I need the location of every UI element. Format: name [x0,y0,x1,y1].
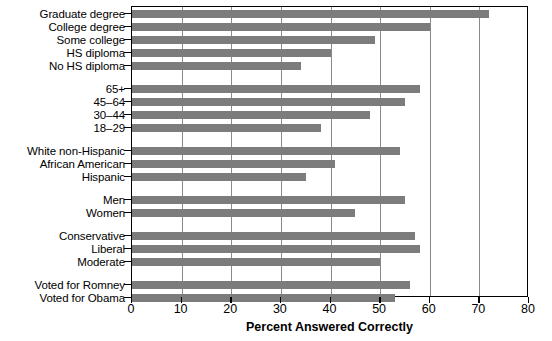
bar [132,147,400,155]
category-label: Conservative [59,230,125,242]
category-label: HS diploma [67,47,125,59]
y-axis-tick [124,235,131,236]
y-axis-tick [124,150,131,151]
bar [132,160,335,168]
y-axis-tick [124,101,131,102]
y-axis-tick [124,88,131,89]
x-axis-tick-label: 60 [422,302,436,316]
category-label: Hispanic [82,171,125,183]
category-label: Liberal [91,243,125,255]
x-axis-tick-label: 20 [223,302,237,316]
y-axis-tick [124,284,131,285]
x-axis-tick-label: 50 [372,302,386,316]
x-axis: 01020304050607080 [131,297,528,311]
bar [132,111,370,119]
category-label: 30–44 [94,109,125,121]
category-label: 65+ [106,83,125,95]
y-axis-tick [124,297,131,298]
bar [132,258,380,266]
bar [132,36,375,44]
category-label: Moderate [77,256,125,268]
bar [132,173,306,181]
category-label: College degree [48,21,125,33]
y-axis-tick [124,248,131,249]
bar [132,209,355,217]
y-axis-tick [124,114,131,115]
y-axis-tick [124,199,131,200]
y-axis-tick [124,127,131,128]
category-label: Voted for Romney [35,279,125,291]
x-axis-tick-label: 30 [273,302,287,316]
bar [132,49,331,57]
x-axis-tick-label: 70 [471,302,485,316]
category-label: White non-Hispanic [27,145,125,157]
y-axis-tick [124,163,131,164]
plot-area [131,6,528,297]
category-label: Men [103,194,125,206]
y-axis-tick [124,261,131,262]
bar [132,10,489,18]
y-axis-tick [124,176,131,177]
bar [132,23,430,31]
category-label: Women [86,207,125,219]
gridline-70 [479,7,480,296]
bar [132,98,405,106]
y-axis-tick [124,52,131,53]
category-label: Some college [57,34,125,46]
x-axis-tick-label: 10 [174,302,188,316]
y-axis-tick [124,26,131,27]
category-labels: Graduate degreeCollege degreeSome colleg… [0,0,128,296]
bar-chart: Graduate degreeCollege degreeSome colleg… [0,0,552,341]
y-axis-tick [124,39,131,40]
y-axis-tick [124,13,131,14]
category-label: 45–64 [94,96,125,108]
category-label: No HS diploma [49,60,125,72]
bar [132,281,410,289]
x-axis-tick-label: 80 [521,302,535,316]
bar [132,196,405,204]
gridline-60 [430,7,431,296]
y-axis-tick [124,212,131,213]
bar [132,232,415,240]
x-axis-tick-label: 40 [323,302,337,316]
bar [132,245,420,253]
bar [132,124,321,132]
category-label: Graduate degree [40,8,125,20]
y-axis-tick [124,65,131,66]
x-axis-tick-label: 0 [128,302,135,316]
bar [132,62,301,70]
category-label: 18–29 [94,122,125,134]
category-label: African American [40,158,125,170]
bar [132,85,420,93]
category-label: Voted for Obama [40,292,125,304]
x-axis-title: Percent Answered Correctly [131,320,528,334]
